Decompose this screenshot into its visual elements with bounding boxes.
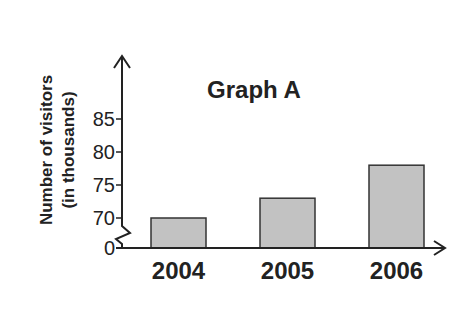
y-tick-label: 80 xyxy=(93,141,115,163)
bar-chart: Graph A Number of visitors (in thousands… xyxy=(0,0,476,310)
x-tick-label: 2004 xyxy=(152,257,206,284)
bar-2006 xyxy=(369,165,424,248)
y-tick-label: 75 xyxy=(93,174,115,196)
x-tick-label: 2006 xyxy=(370,257,423,284)
bar-2005 xyxy=(260,198,315,248)
y-axis-ticks: 070758085 xyxy=(93,108,122,259)
y-tick-label: 85 xyxy=(93,108,115,130)
bars xyxy=(151,165,424,248)
y-axis-label: Number of visitors (in thousands) xyxy=(37,75,78,225)
y-axis-label-line-1: Number of visitors xyxy=(37,75,56,225)
y-tick-label: 0 xyxy=(104,237,115,259)
chart-title: Graph A xyxy=(207,76,301,103)
chart-canvas: Graph A Number of visitors (in thousands… xyxy=(0,0,476,310)
bar-2004 xyxy=(151,218,206,248)
y-tick-label: 70 xyxy=(93,207,115,229)
x-tick-label: 2005 xyxy=(261,257,314,284)
y-axis-label-line-2: (in thousands) xyxy=(59,91,78,208)
x-axis-labels: 200420052006 xyxy=(152,257,423,284)
